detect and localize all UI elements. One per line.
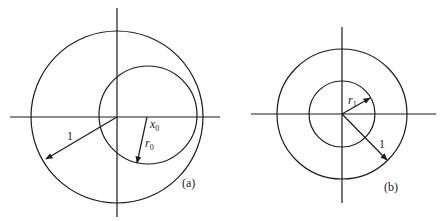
figure-a: 1 x0 r0 (a)	[10, 8, 220, 217]
r1-label: r1	[348, 93, 357, 109]
figure-a-label: (a)	[182, 176, 195, 190]
unit-radius-label-a: 1	[67, 129, 73, 143]
unit-radius-arrow-a	[46, 117, 117, 159]
figure-b-label: (b)	[384, 180, 398, 194]
figure-b: r1 1 (b)	[251, 27, 436, 203]
unit-radius-label-b: 1	[379, 137, 385, 151]
figure-canvas: 1 x0 r0 (a) r1 1 (b)	[0, 0, 440, 221]
x0-label: x0	[149, 117, 159, 133]
r0-label: r0	[145, 136, 154, 152]
